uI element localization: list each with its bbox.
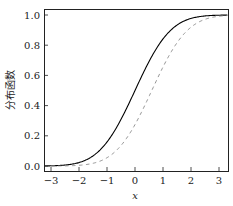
x-axis-ticks: −3−2−10123 [44,167,223,186]
y-tick-label: 0.4 [24,100,40,111]
y-tick-label: 0.0 [24,161,40,172]
y-axis-label: 分布函数 [4,70,16,110]
x-tick-label: 2 [188,175,194,186]
x-tick-label: 0 [132,175,138,186]
y-tick-label: 0.8 [24,40,40,51]
y-tick-label: 1.0 [24,10,40,21]
series-line-solid [44,15,227,166]
y-tick-label: 0.2 [24,130,40,141]
cdf-chart: −3−2−10123 0.00.20.40.60.81.0 x 分布函数 [0,0,233,206]
plot-frame [45,10,229,172]
y-tick-label: 0.6 [24,70,40,81]
series-line-dashed [44,16,227,166]
x-axis-label: x [132,190,138,201]
x-tick-label: −3 [44,175,59,186]
x-tick-label: 1 [160,175,166,186]
x-tick-label: −2 [72,175,87,186]
plot-curves [44,15,227,166]
x-tick-label: 3 [216,175,222,186]
x-tick-label: −1 [100,175,115,186]
